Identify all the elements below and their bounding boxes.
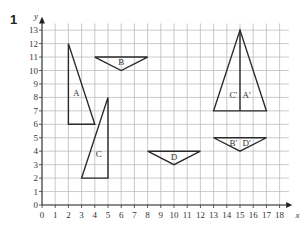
x-tick-label: 2	[66, 210, 71, 220]
x-tick-label: 14	[222, 210, 232, 220]
x-tick-label: 3	[79, 210, 84, 220]
y-tick-label: 3	[34, 160, 39, 170]
x-tick-label: 10	[170, 210, 180, 220]
x-tick-label: 8	[145, 210, 150, 220]
x-tick-label: 13	[209, 210, 219, 220]
x-tick-label: 12	[196, 210, 205, 220]
x-axis-arrow-icon	[286, 202, 292, 208]
y-tick-label: 12	[29, 39, 38, 49]
shapes: ABCDC'A'B'D'	[68, 30, 266, 178]
y-tick-label: 8	[34, 92, 39, 102]
x-tick-label: 7	[132, 210, 137, 220]
y-tick-label: 11	[29, 52, 38, 62]
y-tick-label: 2	[34, 173, 39, 183]
y-tick-label: 7	[34, 106, 39, 116]
x-axis-label: x	[294, 210, 299, 220]
axes	[39, 17, 292, 208]
x-tick-label: 4	[93, 210, 98, 220]
x-tick-label: 16	[249, 210, 259, 220]
x-tick-label: 11	[183, 210, 192, 220]
x-tick-label: 9	[159, 210, 164, 220]
y-tick-label: 4	[34, 146, 39, 156]
shape-label: A'	[243, 90, 251, 100]
y-tick-label: 9	[34, 79, 39, 89]
y-tick-label: 5	[34, 133, 39, 143]
y-axis-label: y	[33, 11, 38, 21]
x-tick-label: 15	[236, 210, 246, 220]
y-tick-label: 6	[34, 119, 39, 129]
y-axis-arrow-icon	[39, 17, 45, 24]
shape-label: D	[171, 152, 178, 162]
shape-label: C	[96, 149, 102, 159]
y-tick-label: 0	[34, 200, 39, 210]
x-tick-label: 18	[275, 210, 285, 220]
x-tick-label: 6	[119, 210, 124, 220]
y-tick-label: 10	[29, 66, 39, 76]
shape-label: C'	[230, 90, 238, 100]
x-tick-label: 1	[53, 210, 58, 220]
x-tick-label: 5	[106, 210, 111, 220]
tick-labels: 0123456789101112131415161718012345678910…	[29, 11, 299, 220]
coordinate-grid-diagram: 0123456789101112131415161718012345678910…	[0, 0, 301, 228]
x-tick-label: 0	[40, 210, 45, 220]
y-tick-label: 1	[34, 187, 39, 197]
y-tick-label: 13	[29, 25, 39, 35]
shape-label: B'	[230, 138, 238, 148]
shape-label: D'	[243, 138, 251, 148]
shape-label: A	[73, 88, 80, 98]
x-tick-label: 17	[262, 210, 272, 220]
shape-label: B	[118, 57, 124, 67]
grid-lines	[42, 23, 289, 205]
